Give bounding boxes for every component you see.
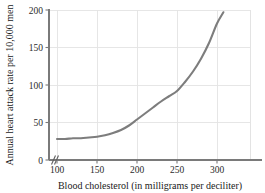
y-tick-label-0: 0	[38, 156, 43, 166]
y-tick-label-100: 100	[29, 81, 44, 91]
y-axis-title: Annual heart attack rate per 10,000 men	[4, 5, 15, 166]
x-tick-label-250: 250	[170, 165, 185, 175]
x-tick-label-200: 200	[130, 165, 145, 175]
y-tick-label-150: 150	[29, 43, 44, 53]
cholesterol-heart-attack-line-chart: 200 150 100 50 0 100 150 200 250 300 Blo…	[0, 0, 265, 193]
chart-figure: 200 150 100 50 0 100 150 200 250 300 Blo…	[0, 0, 265, 193]
y-tick-label-200: 200	[29, 6, 44, 16]
y-tick-label-50: 50	[34, 118, 44, 128]
x-axis-title: Blood cholesterol (in milligrams per dec…	[58, 180, 242, 192]
x-tick-label-150: 150	[90, 165, 105, 175]
x-tick-label-100: 100	[50, 165, 65, 175]
x-tick-label-300: 300	[210, 165, 225, 175]
